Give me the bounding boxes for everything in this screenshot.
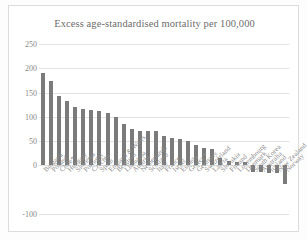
y-axis-tick-label: -100 <box>0 210 37 219</box>
bar <box>114 117 118 165</box>
bar <box>57 96 61 165</box>
bar <box>275 165 279 173</box>
bar <box>235 162 239 166</box>
chart-page: Excess age-standardised mortality per 10… <box>0 0 307 240</box>
bar <box>251 165 255 171</box>
bar <box>186 141 190 165</box>
chart-title: Excess age-standardised mortality per 10… <box>9 18 300 29</box>
y-axis-tick-label: 250 <box>0 40 37 49</box>
bar-series <box>39 44 289 214</box>
bar <box>138 131 142 165</box>
bar <box>49 81 53 166</box>
y-axis-tick-label: 150 <box>0 88 37 97</box>
bar <box>267 165 271 172</box>
bar <box>162 136 166 166</box>
bar <box>97 111 101 165</box>
bar <box>146 131 150 165</box>
bar <box>106 113 110 165</box>
bar <box>283 165 287 183</box>
bar <box>170 138 174 165</box>
bar <box>210 149 214 165</box>
plot-area: 250200150100500-100 <box>39 44 289 214</box>
chart-frame: Excess age-standardised mortality per 10… <box>8 5 299 232</box>
bar <box>81 109 85 165</box>
bar <box>73 107 77 165</box>
bar <box>202 148 206 165</box>
bar <box>259 165 263 172</box>
y-axis-tick-label: 50 <box>0 137 37 146</box>
bar <box>65 101 69 166</box>
bar <box>130 129 134 165</box>
bar <box>122 124 126 166</box>
bar <box>154 131 158 165</box>
bar <box>243 162 247 166</box>
y-axis-tick-label: 200 <box>0 64 37 73</box>
bar <box>89 110 93 166</box>
gridline <box>39 214 289 215</box>
bar <box>178 139 182 166</box>
y-axis-tick-label: 100 <box>0 112 37 121</box>
bar <box>194 145 198 166</box>
bar <box>218 158 222 165</box>
bar <box>41 73 45 165</box>
y-axis-tick-label: 0 <box>0 161 37 170</box>
bar <box>227 161 231 165</box>
